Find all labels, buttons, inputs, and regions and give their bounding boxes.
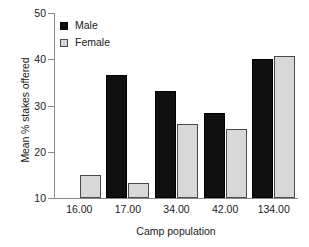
legend-item-female: Female [60,35,110,50]
x-axis-tick-label: 16.00 [55,203,104,215]
bar-group [201,13,250,198]
bar-female [80,175,101,198]
x-axis-line [54,198,298,199]
x-axis-tick-label: 134.00 [249,203,298,215]
x-axis-title: Camp population [54,225,298,237]
y-axis-tick [48,152,55,153]
bar-female [177,124,198,198]
bar-female [274,56,295,198]
y-axis-tick-label: 30 [4,101,46,112]
x-axis-tick-label: 17.00 [104,203,153,215]
y-axis-tick-label: 40 [4,54,46,65]
legend-item-label: Male [75,20,98,31]
y-axis-tick-label: 50 [4,8,46,19]
y-axis-tick [48,13,55,14]
y-axis-tick-label: 10 [4,193,46,204]
bar-female [128,183,149,198]
bar-male [155,91,176,198]
bar-group [249,13,298,198]
legend-swatch-icon [60,39,68,47]
bar-male [106,75,127,198]
y-axis-tick [48,106,55,107]
legend-item-male: Male [60,18,110,33]
bar-male [204,113,225,198]
bar-group [152,13,201,198]
y-axis-tick-label: 20 [4,147,46,158]
chart-legend: MaleFemale [60,18,110,52]
bar-female [226,129,247,198]
bar-male [252,59,273,198]
legend-item-label: Female [75,37,110,48]
bar-group [104,13,153,198]
bar-chart: Mean % stakes offered 1020304050 16.0017… [0,0,309,247]
x-axis-tick-label: 42.00 [201,203,250,215]
x-axis-tick-label: 34.00 [152,203,201,215]
y-axis-tick [48,59,55,60]
legend-swatch-icon [60,22,68,30]
